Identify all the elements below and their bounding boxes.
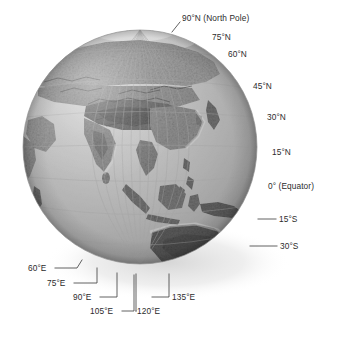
longitude-label-60E: 60°E [28,263,47,273]
longitude-label-75E: 75°E [47,278,66,288]
latitude-label-equator: 0° (Equator) [268,181,314,191]
globe-highlight [23,30,257,264]
longitude-label-90E: 90°E [73,292,92,302]
latitude-label-15N: 15°N [272,147,291,157]
latitude-label-45N: 45°N [253,81,272,91]
latitude-label-60N: 60°N [228,49,247,59]
latitude-label-90N: 90°N (North Pole) [182,13,249,23]
latitude-label-30N: 30°N [267,112,286,122]
longitude-label-105E: 105°E [90,306,114,316]
latitude-label-75N: 75°N [212,32,231,42]
longitude-label-120E: 120°E [137,306,161,316]
globe-diagram-svg: 90°N (North Pole) 75°N 60°N 45°N 30°N 15… [0,0,343,340]
longitude-label-135E: 135°E [172,292,196,302]
latitude-label-15S: 15°S [279,214,298,224]
latitude-label-30S: 30°S [280,241,299,251]
globe-figure: 90°N (North Pole) 75°N 60°N 45°N 30°N 15… [0,0,343,340]
